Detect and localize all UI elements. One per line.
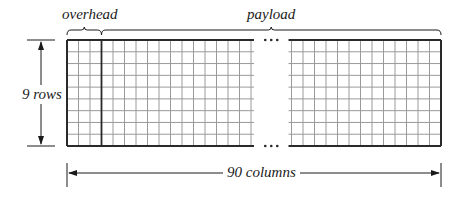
arrow-left-icon: [68, 170, 77, 176]
braces: [67, 27, 441, 35]
rows-label: 9 rows: [22, 85, 62, 104]
ellipsis-dots: [264, 39, 279, 148]
ellipsis-dot: [276, 145, 279, 148]
ellipsis-dot: [264, 145, 267, 148]
ellipsis-dot: [270, 39, 273, 42]
arrow-down-icon: [38, 136, 44, 145]
arrow-up-icon: [38, 41, 44, 50]
grid-left-block: [67, 40, 254, 146]
overhead-brace: [67, 27, 102, 35]
ellipsis-dot: [264, 39, 267, 42]
columns-label: 90 columns: [223, 165, 300, 180]
ellipsis-dot: [270, 145, 273, 148]
overhead-label: overhead: [62, 7, 118, 22]
payload-brace: [102, 27, 442, 35]
grid-right-block: [289, 40, 442, 146]
payload-label: payload: [247, 7, 295, 22]
ellipsis-dot: [276, 39, 279, 42]
arrow-right-icon: [431, 170, 440, 176]
